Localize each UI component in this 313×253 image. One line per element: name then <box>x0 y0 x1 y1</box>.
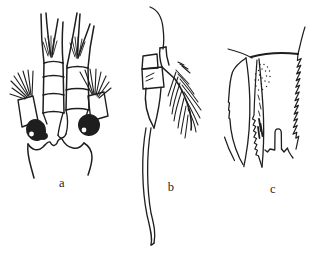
long-flagellum <box>143 128 155 245</box>
middle-serrate-blade <box>253 59 264 167</box>
serrated-right-margin <box>293 54 301 149</box>
antennal-filament-top <box>150 7 164 49</box>
panel-b-label: b <box>168 181 175 194</box>
plate-top-edge <box>251 53 298 57</box>
right-setae-bundle <box>80 69 111 98</box>
illustration-canvas: a b c <box>0 0 313 253</box>
dark-streaks <box>258 119 263 138</box>
left-setae-bundle <box>10 70 33 99</box>
basal-segment-small <box>142 54 158 69</box>
figure-b-drawing <box>142 7 201 245</box>
figure-c-drawing <box>225 27 306 167</box>
panel-a-label: a <box>59 177 65 190</box>
figure-a-drawing <box>10 13 111 178</box>
line-drawing <box>0 0 313 253</box>
panel-c-label: c <box>270 183 276 196</box>
antennal-blade <box>145 88 161 128</box>
left-eye <box>23 117 48 143</box>
bottom-margin-notch <box>265 129 293 158</box>
carapace-outline <box>28 139 92 178</box>
left-hair <box>228 49 252 58</box>
right-eye <box>76 112 101 137</box>
left-antennule <box>41 13 64 113</box>
interior-hatch <box>258 95 261 116</box>
peduncle-segment <box>160 47 169 67</box>
right-hair <box>298 27 305 54</box>
segment-slash-marks <box>146 73 154 81</box>
left-narrow-blade <box>225 58 250 167</box>
setose-branch <box>162 62 201 138</box>
